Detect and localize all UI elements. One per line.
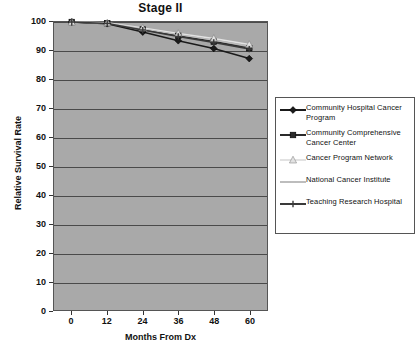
x-tick-mark xyxy=(143,311,144,315)
legend-marker-triangle-icon xyxy=(280,154,306,165)
y-tick-mark xyxy=(49,311,53,312)
y-tick-label: 0 xyxy=(10,306,46,316)
legend-marker-diamond-icon xyxy=(280,104,306,115)
y-tick-label: 10 xyxy=(10,277,46,287)
data-point-diamond xyxy=(210,45,217,52)
x-tick-label: 12 xyxy=(92,316,122,326)
legend-item[interactable]: Cancer Program Network xyxy=(280,153,410,169)
x-tick-label: 48 xyxy=(199,316,229,326)
legend-label: Cancer Program Network xyxy=(306,153,393,163)
data-point-triangle xyxy=(289,156,296,163)
legend-label: National Cancer Institute xyxy=(306,175,391,185)
data-point-diamond xyxy=(290,107,297,114)
legend-marker-cross-icon xyxy=(280,198,306,209)
series-line xyxy=(72,22,250,49)
legend-label: Teaching Research Hospital xyxy=(306,197,402,207)
x-tick-mark xyxy=(107,311,108,315)
y-tick-label: 60 xyxy=(10,132,46,142)
chart-legend: Community Hospital Cancer ProgramCommuni… xyxy=(275,97,415,234)
x-tick-label: 60 xyxy=(235,316,265,326)
legend-item[interactable]: Community Hospital Cancer Program xyxy=(280,103,410,122)
x-tick-mark xyxy=(214,311,215,315)
x-tick-label: 36 xyxy=(163,316,193,326)
y-tick-label: 80 xyxy=(10,74,46,84)
y-tick-label: 30 xyxy=(10,219,46,229)
legend-label: Community Comprehensive Cancer Center xyxy=(306,128,410,147)
x-tick-mark xyxy=(250,311,251,315)
legend-item[interactable]: Teaching Research Hospital xyxy=(280,197,410,213)
legend-marker-line-icon xyxy=(280,176,306,187)
y-tick-label: 20 xyxy=(10,248,46,258)
x-tick-mark xyxy=(71,311,72,315)
legend-marker-square-icon xyxy=(280,129,306,140)
y-tick-label: 100 xyxy=(10,16,46,26)
x-axis-title: Months From Dx xyxy=(53,332,268,342)
y-tick-label: 40 xyxy=(10,190,46,200)
y-tick-label: 50 xyxy=(10,161,46,171)
y-tick-label: 90 xyxy=(10,45,46,55)
x-tick-label: 0 xyxy=(56,316,86,326)
data-point-diamond xyxy=(246,55,253,62)
y-tick-label: 70 xyxy=(10,103,46,113)
chart-title: Stage II xyxy=(53,1,268,15)
x-tick-mark xyxy=(178,311,179,315)
series-layer xyxy=(54,22,267,310)
data-point-square xyxy=(290,132,296,138)
plot-area xyxy=(53,21,268,311)
survival-chart: Stage II Relative Survival Rate 01020304… xyxy=(0,0,420,350)
legend-item[interactable]: National Cancer Institute xyxy=(280,175,410,191)
data-point-cross xyxy=(290,201,296,207)
legend-item[interactable]: Community Comprehensive Cancer Center xyxy=(280,128,410,147)
legend-label: Community Hospital Cancer Program xyxy=(306,103,410,122)
x-tick-label: 24 xyxy=(128,316,158,326)
